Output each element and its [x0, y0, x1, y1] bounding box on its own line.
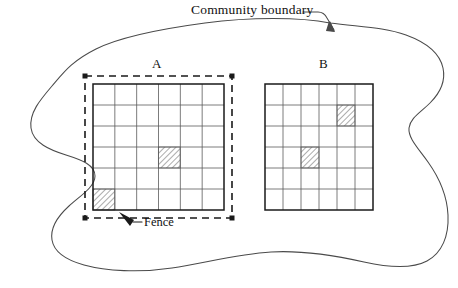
fence-corner-dot [230, 216, 235, 221]
fence-label: Fence [144, 216, 174, 229]
figure-container: Community boundary A B Fence [0, 0, 458, 288]
fence-corner-dot [83, 216, 88, 221]
plot-a-shaded-cell [158, 147, 180, 168]
plot-b-group [265, 84, 373, 210]
plot-a-shaded-cell [93, 189, 115, 210]
plot-a-group [83, 74, 235, 221]
fence-corner-dot [230, 74, 235, 79]
plot-a-label: A [152, 57, 161, 70]
plot-b-shaded-cell [337, 105, 355, 126]
plot-b-shaded-cell [301, 147, 319, 168]
boundary-layer [0, 0, 458, 288]
fence-corner-dot [83, 74, 88, 79]
community-boundary-label: Community boundary [191, 3, 313, 17]
fence-arrowhead [119, 212, 134, 226]
plot-b-label: B [319, 57, 328, 70]
